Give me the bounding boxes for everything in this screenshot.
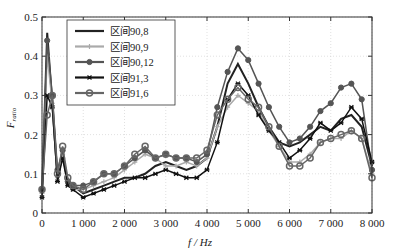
data-point [308, 124, 313, 129]
data-point [81, 195, 86, 199]
x-tick-label: 4 000 [195, 217, 220, 229]
legend: 区间90,8区间90,9区间90,12区间91,3区间91,6 [67, 20, 175, 105]
data-point [246, 58, 251, 63]
data-point [266, 105, 271, 110]
line-chart: 01 0002 0003 0004 0005 0006 0007 0008 00… [0, 0, 393, 252]
x-tick-label: 6 000 [277, 217, 302, 229]
data-point [338, 85, 343, 90]
data-point [359, 97, 364, 102]
legend-label: 区间91,3 [110, 72, 148, 84]
data-point [287, 156, 292, 160]
data-point [194, 176, 199, 180]
data-point [328, 101, 333, 106]
x-tick-label: 2 000 [112, 217, 137, 229]
data-point [112, 184, 117, 188]
data-point [287, 140, 292, 145]
data-point [174, 172, 179, 176]
data-point [45, 38, 50, 43]
y-tick-label: 0.3 [24, 89, 38, 101]
data-point [87, 59, 92, 64]
x-tick-label: 1 000 [71, 217, 96, 229]
data-point [318, 108, 323, 113]
data-point [184, 176, 189, 180]
data-point [91, 191, 96, 195]
y-tick-label: 0.5 [24, 11, 38, 23]
data-point [277, 124, 282, 129]
x-tick-label: 5 000 [236, 217, 261, 229]
x-tick-label: 7 000 [318, 217, 343, 229]
data-point [339, 121, 344, 125]
data-point [297, 136, 302, 141]
x-tick-label: 0 [39, 217, 45, 229]
y-tick-label: 0.1 [24, 168, 38, 180]
legend-label: 区间90,9 [110, 41, 148, 53]
legend-label: 区间90,12 [110, 56, 154, 68]
legend-label: 区间90,8 [110, 25, 148, 37]
y-tick-label: 0.2 [24, 129, 38, 141]
y-tick-label: 0 [33, 207, 39, 219]
data-point [256, 81, 261, 86]
data-point [225, 69, 230, 74]
y-axis-label: Fratio [4, 107, 18, 129]
data-point [235, 46, 240, 51]
x-axis-label: f / Hz [188, 236, 213, 248]
legend-label: 区间91,6 [110, 87, 148, 99]
data-point [101, 179, 106, 184]
x-tick-label: 3 000 [153, 217, 178, 229]
data-point [101, 187, 106, 191]
data-point [143, 176, 148, 180]
x-tick-label: 8 000 [360, 217, 385, 229]
data-point [163, 168, 168, 172]
data-point [297, 148, 302, 152]
data-point [349, 81, 354, 86]
data-point [318, 121, 323, 125]
y-tick-label: 0.4 [24, 50, 38, 62]
data-point [215, 105, 220, 110]
data-point [132, 176, 137, 180]
data-point [153, 172, 158, 176]
data-point [122, 180, 127, 184]
